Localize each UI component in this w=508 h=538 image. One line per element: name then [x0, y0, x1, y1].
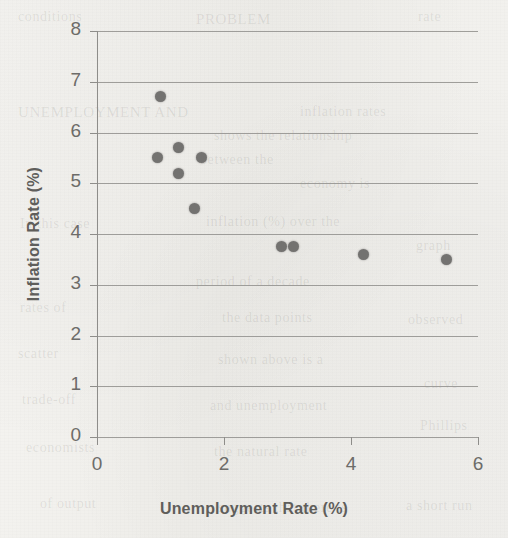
x-axis-title: Unemployment Rate (%)	[0, 500, 508, 518]
gridline-y	[97, 133, 478, 134]
y-axis-tick	[90, 285, 97, 286]
x-axis-tick	[224, 437, 225, 445]
y-axis-tick-label: 1	[41, 373, 81, 395]
x-axis-tick	[97, 437, 98, 445]
gridline-y	[97, 386, 478, 387]
gridline-y	[97, 31, 478, 32]
x-axis-tick-label: 0	[77, 453, 117, 475]
y-axis-tick-label: 7	[41, 69, 81, 91]
data-point	[288, 241, 299, 252]
y-axis-tick-label: 3	[41, 272, 81, 294]
y-axis-tick-label: 2	[41, 323, 81, 345]
gridline-y	[97, 336, 478, 337]
x-axis-tick	[351, 437, 352, 445]
x-axis-tick-label: 6	[458, 453, 498, 475]
y-axis-tick-label: 5	[41, 170, 81, 192]
scatter-chart: 0123456780246 Inflation Rate (%) Unemplo…	[0, 0, 508, 538]
y-axis-tick	[90, 386, 97, 387]
gridline-y	[97, 437, 478, 438]
gridline-y	[97, 183, 478, 184]
data-point	[173, 168, 184, 179]
data-point	[196, 152, 207, 163]
y-axis-tick	[90, 336, 97, 337]
data-point	[441, 254, 452, 265]
data-point	[189, 203, 200, 214]
data-point	[276, 241, 287, 252]
x-axis-tick-label: 4	[331, 453, 371, 475]
y-axis-tick	[90, 133, 97, 134]
gridline-y	[97, 285, 478, 286]
y-axis-line	[97, 31, 98, 437]
y-axis-title: Inflation Rate (%)	[25, 144, 43, 324]
data-point	[155, 91, 166, 102]
y-axis-tick-label: 6	[41, 120, 81, 142]
y-axis-tick	[90, 82, 97, 83]
y-axis-tick-label: 8	[41, 18, 81, 40]
y-axis-tick	[90, 183, 97, 184]
y-axis-tick	[90, 437, 97, 438]
x-axis-tick	[478, 437, 479, 445]
y-axis-tick	[90, 234, 97, 235]
y-axis-tick	[90, 31, 97, 32]
data-point	[152, 152, 163, 163]
data-point	[173, 142, 184, 153]
gridline-y	[97, 234, 478, 235]
data-point	[358, 249, 369, 260]
gridline-y	[97, 82, 478, 83]
y-axis-tick-label: 0	[41, 424, 81, 446]
y-axis-tick-label: 4	[41, 221, 81, 243]
x-axis-tick-label: 2	[204, 453, 244, 475]
